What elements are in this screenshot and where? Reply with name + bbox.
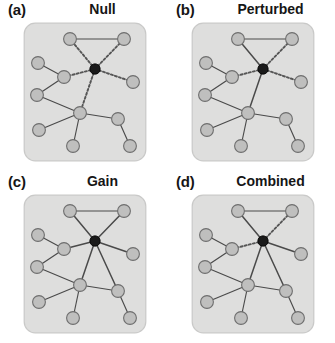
network-node-n2 xyxy=(286,205,299,218)
panel-d-svg xyxy=(191,194,315,334)
network-node-n11 xyxy=(124,312,137,325)
hub-node xyxy=(90,64,100,74)
network-node-n5 xyxy=(31,261,44,274)
hub-node xyxy=(90,236,100,246)
figure-network-panels: (a) Null (b) Perturbed (c) Gain (d) Comb… xyxy=(0,0,335,343)
network-node-n8 xyxy=(201,296,214,309)
network-node-n1 xyxy=(232,33,245,46)
network-node-n5 xyxy=(199,261,212,274)
network-node-n5 xyxy=(31,89,44,102)
network-node-n2 xyxy=(286,33,299,46)
network-node-n5 xyxy=(199,89,212,102)
network-node-n10 xyxy=(112,285,125,298)
network-node-n3 xyxy=(200,57,213,70)
network-node-n4 xyxy=(226,71,239,84)
panel-c-network xyxy=(23,194,147,334)
network-node-n9 xyxy=(235,140,248,153)
network-node-n7 xyxy=(242,107,255,120)
network-node-n6 xyxy=(295,76,308,89)
network-node-n3 xyxy=(32,57,45,70)
panel-c-header: (c) Gain xyxy=(0,172,167,194)
panel-a-network xyxy=(23,22,147,162)
panel-b-network xyxy=(191,22,315,162)
network-node-n10 xyxy=(280,285,293,298)
panel-b-header: (b) Perturbed xyxy=(168,0,335,22)
panel-a-title: Null xyxy=(0,1,167,17)
network-node-n11 xyxy=(292,140,305,153)
network-node-n9 xyxy=(67,312,80,325)
network-node-n7 xyxy=(74,279,87,292)
network-node-n1 xyxy=(232,205,245,218)
network-node-n3 xyxy=(200,229,213,242)
network-node-n1 xyxy=(64,205,77,218)
hub-node xyxy=(258,236,268,246)
network-node-n3 xyxy=(32,229,45,242)
panel-a: (a) Null xyxy=(0,0,167,171)
network-node-n7 xyxy=(74,107,87,120)
network-node-n10 xyxy=(280,113,293,126)
panel-b: (b) Perturbed xyxy=(168,0,335,171)
network-node-n6 xyxy=(295,248,308,261)
panel-d-title: Combined xyxy=(168,173,335,189)
network-node-n4 xyxy=(58,243,71,256)
panel-c-svg xyxy=(23,194,147,334)
panel-a-header: (a) Null xyxy=(0,0,167,22)
network-node-n11 xyxy=(292,312,305,325)
hub-node xyxy=(258,64,268,74)
network-node-n1 xyxy=(64,33,77,46)
network-node-n8 xyxy=(201,124,214,137)
panel-c-title: Gain xyxy=(0,173,167,189)
network-node-n7 xyxy=(242,279,255,292)
panel-c: (c) Gain xyxy=(0,172,167,343)
panel-a-svg xyxy=(23,22,147,162)
network-node-n8 xyxy=(33,296,46,309)
network-node-n6 xyxy=(127,76,140,89)
network-node-n10 xyxy=(112,113,125,126)
network-node-n4 xyxy=(226,243,239,256)
network-node-n6 xyxy=(127,248,140,261)
network-node-n2 xyxy=(118,33,131,46)
panel-b-svg xyxy=(191,22,315,162)
network-node-n9 xyxy=(235,312,248,325)
network-node-n2 xyxy=(118,205,131,218)
panel-d-header: (d) Combined xyxy=(168,172,335,194)
panel-b-title: Perturbed xyxy=(168,1,335,17)
network-node-n9 xyxy=(67,140,80,153)
panel-d: (d) Combined xyxy=(168,172,335,343)
network-node-n4 xyxy=(58,71,71,84)
panel-d-network xyxy=(191,194,315,334)
network-node-n8 xyxy=(33,124,46,137)
network-node-n11 xyxy=(124,140,137,153)
